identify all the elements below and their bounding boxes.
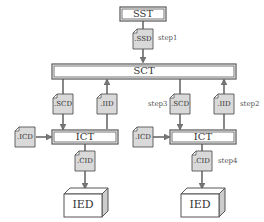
sct-label: SCT <box>54 65 234 77</box>
ied-right-label: IED <box>181 199 219 211</box>
icd-left-doc-label: .ICD <box>15 133 35 142</box>
iid-right-doc-label: .IID <box>214 100 234 109</box>
scd-right-doc-label: .SCD <box>170 100 190 109</box>
ied-left-label: IED <box>64 199 102 211</box>
cid-left-doc-label: .CID <box>75 157 95 166</box>
scd-left-doc-label: .SCD <box>53 100 73 109</box>
cid-right-doc-label: .CID <box>192 157 212 166</box>
ict-right-label: ICT <box>172 131 234 143</box>
iid-left-doc-label: .IID <box>97 100 117 109</box>
step2-label: step2 <box>240 100 259 109</box>
ssd-doc-label: .SSD <box>133 35 153 44</box>
step1-label: step1 <box>158 34 177 43</box>
step3-label: step3 <box>148 100 167 109</box>
step4-label: step4 <box>218 157 237 166</box>
ict-left-label: ICT <box>54 131 116 143</box>
icd-right-doc-label: .ICD <box>133 133 153 142</box>
diagram-canvas <box>0 0 264 222</box>
sst-label: SST <box>122 8 164 20</box>
